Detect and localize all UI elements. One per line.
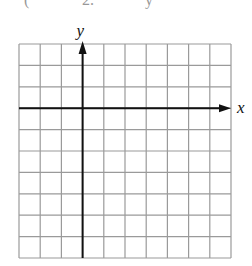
x-axis-label: x: [236, 98, 245, 117]
grid-lines: [19, 44, 231, 258]
coordinate-grid: x y: [0, 0, 252, 266]
x-axis-arrow-icon: [219, 104, 231, 112]
y-axis-label: y: [75, 21, 85, 40]
y-axis-arrow-icon: [79, 41, 87, 54]
